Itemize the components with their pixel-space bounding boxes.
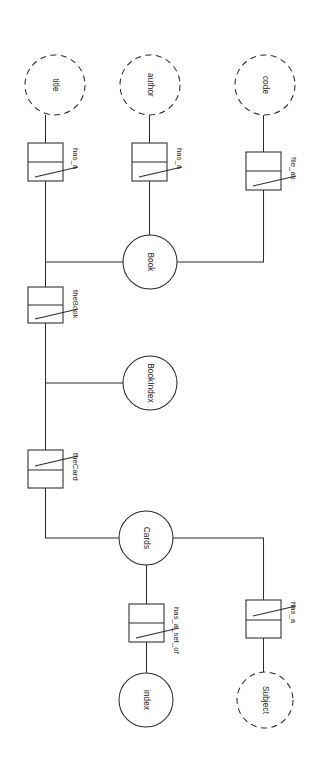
entity-book[interactable]: Book: [123, 235, 177, 289]
relationship-label: theBook: [71, 290, 80, 319]
relationship-label: file_as: [289, 157, 298, 180]
relationship-label: has_a: [71, 148, 80, 170]
diagram-svg: has_a has_a file_as theBook: [0, 0, 333, 762]
entity-author[interactable]: author: [120, 55, 180, 115]
edge-file-as-to-book: [177, 190, 264, 262]
relationship-label: theCard: [71, 453, 80, 481]
entity-label: author: [146, 73, 155, 97]
entity-label: Cards: [142, 527, 151, 549]
relationship-has-a-title[interactable]: has_a: [28, 143, 80, 181]
entity-label: Subject: [261, 686, 270, 715]
entity-title[interactable]: title: [25, 55, 85, 115]
edge-cards-to-has-a-subject: [173, 538, 264, 600]
relationship-file-as[interactable]: file_as: [246, 152, 298, 190]
entity-label: title: [51, 78, 60, 92]
relationship-has-a-subject[interactable]: has_a: [246, 600, 298, 638]
entity-subject[interactable]: Subject: [237, 672, 293, 728]
edge-thecard-to-cards: [46, 488, 120, 538]
entity-index[interactable]: index: [119, 673, 173, 727]
entity-code[interactable]: code: [235, 55, 295, 115]
relationship-label: has_a: [289, 602, 298, 624]
relationship-has-a-author[interactable]: has_a: [132, 143, 184, 181]
relationship-label: has_a: [175, 148, 184, 170]
relationship-box: [246, 600, 281, 638]
relationship-thecard[interactable]: theCard: [28, 450, 80, 488]
entity-label: Book: [146, 252, 155, 272]
relationship-label: has_a_set_of: [172, 607, 181, 655]
entity-label: index: [142, 690, 151, 710]
relationship-box: [28, 450, 63, 488]
relationship-thebook[interactable]: theBook: [28, 287, 80, 323]
relationship-has-a-set-of[interactable]: has_a_set_of: [129, 604, 181, 655]
entity-bookindex[interactable]: BookIndex: [123, 356, 177, 410]
diagram-canvas: has_a has_a file_as theBook: [0, 0, 333, 762]
entity-cards[interactable]: Cards: [119, 511, 173, 565]
entity-label: code: [261, 76, 270, 95]
entity-label: BookIndex: [146, 363, 155, 403]
